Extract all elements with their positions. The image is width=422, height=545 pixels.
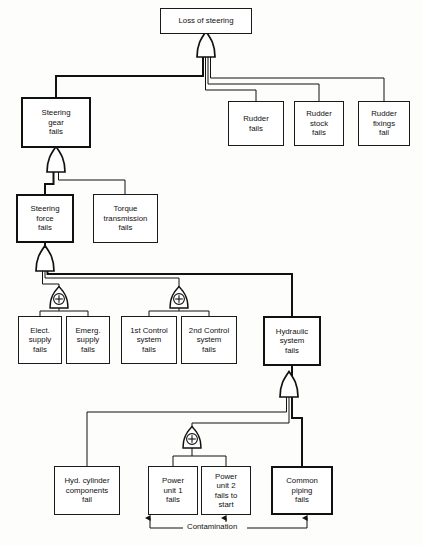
connector-group-control-gate bbox=[149, 308, 209, 316]
connector-group-top bbox=[56, 34, 384, 101]
event-box-hyd-cylinder-components-fail[interactable]: Hyd. cylinder components fail bbox=[54, 466, 120, 515]
event-box-steering-gear-fails[interactable]: Steering gear fails bbox=[21, 97, 91, 148]
event-box-rudder-stock-fails[interactable]: Rudder stock fails bbox=[294, 101, 344, 146]
event-box-first-control-system-fails[interactable]: 1st Control system fails bbox=[121, 316, 177, 364]
connector-group-power-gate bbox=[173, 448, 226, 466]
event-label-rudder-stock-fails: Rudder stock fails bbox=[295, 109, 343, 138]
connector-group-steering-force bbox=[43, 243, 293, 316]
fault-tree-connectors bbox=[0, 0, 422, 545]
connector-group-supply-gate bbox=[40, 308, 88, 316]
event-label-steering-force-fails: Steering force fails bbox=[18, 204, 72, 233]
event-label-first-control-system-fails: 1st Control system fails bbox=[122, 326, 176, 355]
event-label-second-control-system-fails: 2nd Control system fails bbox=[182, 326, 236, 355]
event-box-common-piping-fails[interactable]: Common piping fails bbox=[271, 466, 333, 515]
event-label-rudder-fails: Rudder fails bbox=[229, 114, 283, 133]
event-box-torque-transmission-fails[interactable]: Torque transmission fails bbox=[93, 194, 158, 243]
or-gate-supply bbox=[50, 287, 68, 309]
event-label-power-unit-2-fails-to-start: Power unit 2 fails to start bbox=[202, 472, 250, 510]
event-box-second-control-system-fails[interactable]: 2nd Control system fails bbox=[181, 316, 237, 364]
event-box-hydraulic-system-fails[interactable]: Hydraulic system fails bbox=[263, 316, 321, 366]
event-box-steering-force-fails[interactable]: Steering force fails bbox=[16, 194, 74, 243]
or-gate-top bbox=[197, 32, 215, 58]
event-label-torque-transmission-fails: Torque transmission fails bbox=[94, 204, 157, 233]
event-box-rudder-fixings-fail[interactable]: Rudder fixings fail bbox=[358, 101, 410, 146]
event-box-loss-of-steering[interactable]: Loss of steering bbox=[160, 8, 252, 34]
or-gate-steering-force bbox=[36, 246, 54, 272]
or-gate-steering-gear bbox=[47, 147, 65, 173]
event-box-power-unit-1-fails[interactable]: Power unit 1 fails bbox=[148, 466, 198, 515]
or-gate-hydraulic bbox=[280, 372, 298, 398]
event-box-emerg-supply-fails[interactable]: Emerg. supply fails bbox=[66, 316, 110, 364]
event-label-emerg-supply-fails: Emerg. supply fails bbox=[67, 326, 109, 355]
fault-tree-diagram: Loss of steering Steering gear fails Rud… bbox=[0, 0, 422, 545]
event-label-rudder-fixings-fail: Rudder fixings fail bbox=[359, 109, 409, 138]
event-label-loss-of-steering: Loss of steering bbox=[161, 16, 251, 26]
connector-group-hydraulic bbox=[87, 366, 302, 466]
or-gate-control bbox=[170, 287, 188, 309]
or-gate-power bbox=[183, 427, 201, 449]
contamination-annotation: Contamination bbox=[184, 522, 240, 531]
event-box-elect-supply-fails[interactable]: Elect. supply fails bbox=[18, 316, 62, 364]
event-box-power-unit-2-fails-to-start[interactable]: Power unit 2 fails to start bbox=[201, 466, 251, 515]
event-label-common-piping-fails: Common piping fails bbox=[273, 476, 331, 505]
event-label-hydraulic-system-fails: Hydraulic system fails bbox=[265, 327, 319, 356]
event-label-power-unit-1-fails: Power unit 1 fails bbox=[149, 476, 197, 505]
event-label-hyd-cylinder-components-fail: Hyd. cylinder components fail bbox=[55, 476, 119, 505]
event-label-steering-gear-fails: Steering gear fails bbox=[23, 108, 89, 137]
event-label-elect-supply-fails: Elect. supply fails bbox=[19, 326, 61, 355]
event-box-rudder-fails[interactable]: Rudder fails bbox=[228, 101, 284, 146]
